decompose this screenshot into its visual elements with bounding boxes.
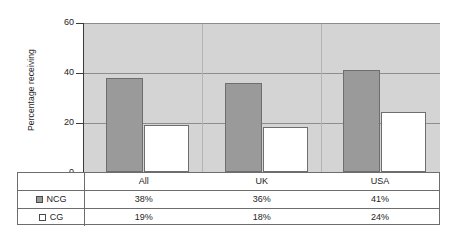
y-tick-20: 20 — [52, 118, 74, 127]
y-tick-60: 60 — [52, 18, 74, 27]
bar-cg-all — [144, 125, 189, 172]
bar-ncg-usa — [343, 70, 380, 172]
table-category-uk: UK — [203, 173, 321, 191]
y-tick-40: 40 — [52, 68, 74, 77]
y-axis-line — [83, 23, 84, 173]
table-row-ncg: NCG 38% 36% 41% — [18, 191, 439, 209]
table-category-all: All — [85, 173, 203, 191]
legend-swatch-cg-icon — [39, 214, 46, 221]
data-table: All UK USA NCG 38% 36% 41% CG 19% 18% 24… — [17, 172, 440, 225]
legend-label-cg: CG — [50, 212, 64, 222]
table-cell-cg-uk: 18% — [203, 209, 321, 227]
table-cell-cg-usa: 24% — [321, 209, 439, 227]
bar-chart-figure: Percentage receiving 60 40 20 0 All — [0, 0, 457, 234]
table-row-categories: All UK USA — [18, 173, 439, 191]
bar-cg-usa — [381, 112, 426, 172]
legend-item-ncg: NCG — [18, 191, 85, 209]
legend-label-ncg: NCG — [47, 194, 67, 204]
table-row-cg: CG 19% 18% 24% — [18, 209, 439, 227]
table-cell-ncg-all: 38% — [85, 191, 203, 209]
y-axis-title-text: Percentage receiving — [26, 49, 36, 131]
table-corner-cell — [18, 173, 85, 191]
legend-swatch-ncg-icon — [36, 196, 43, 203]
table-category-usa: USA — [321, 173, 439, 191]
y-tickmark-40 — [76, 73, 83, 74]
bar-cg-uk — [263, 127, 308, 172]
group-separator-1 — [202, 24, 203, 173]
gridline-40 — [84, 73, 440, 74]
group-separator-2 — [321, 24, 322, 173]
y-tickmark-20 — [76, 123, 83, 124]
y-axis-title: Percentage receiving — [24, 14, 38, 166]
table-cell-cg-all: 19% — [85, 209, 203, 227]
y-tickmark-60 — [76, 23, 83, 24]
table-cell-ncg-uk: 36% — [203, 191, 321, 209]
legend-item-cg: CG — [18, 209, 85, 227]
bar-ncg-all — [106, 78, 143, 172]
table-cell-ncg-usa: 41% — [321, 191, 439, 209]
bar-ncg-uk — [225, 83, 262, 172]
plot-area — [84, 23, 440, 172]
